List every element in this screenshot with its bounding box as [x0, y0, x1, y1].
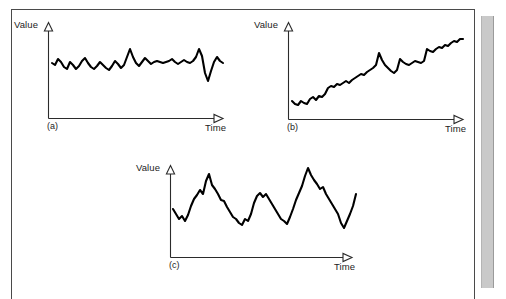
x-axis-label-b: Time — [445, 123, 466, 134]
panel-caption-a: (a) — [47, 121, 58, 131]
x-axis-label-a: Time — [205, 122, 226, 133]
panel-caption-b: (b) — [287, 122, 298, 132]
y-axis-label-c: Value — [136, 162, 160, 173]
chart-panel-c: Value Time (c) — [170, 165, 358, 261]
series-line-a — [52, 49, 223, 81]
chart-panel-b: Value Time (b) — [288, 22, 470, 122]
chart-svg-b — [288, 22, 470, 122]
chart-svg-a — [48, 22, 230, 122]
chart-svg-c — [170, 165, 358, 261]
x-axis-label-c: Time — [334, 261, 355, 272]
y-axis-label-a: Value — [14, 19, 38, 30]
series-line-b — [292, 39, 463, 105]
panel-caption-c: (c) — [169, 260, 180, 270]
y-axis-label-b: Value — [254, 19, 278, 30]
page-shadow-strip — [481, 16, 494, 288]
chart-panel-a: Value Time (a) — [48, 22, 230, 122]
series-line-c — [173, 168, 356, 228]
